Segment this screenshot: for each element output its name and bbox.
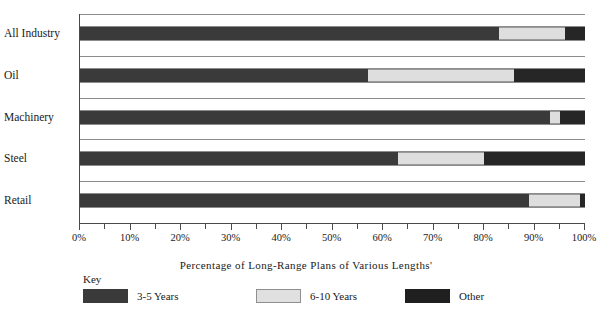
legend-swatch: [405, 289, 450, 303]
bar-row: [80, 194, 585, 207]
stacked-bar-chart: All IndustryOilMachinerySteelRetail 0%10…: [0, 0, 612, 310]
x-tick-label: 60%: [360, 232, 404, 243]
x-tick-minor: [306, 223, 307, 229]
bar-segment: [550, 111, 560, 124]
x-tick-minor: [458, 223, 459, 229]
x-tick-label: 30%: [209, 232, 253, 243]
bar-row: [80, 152, 585, 165]
bar-segment: [80, 194, 529, 207]
category-label: Retail: [4, 194, 31, 207]
gridline: [80, 124, 585, 125]
bar-segment: [398, 152, 484, 165]
bar-segment: [514, 69, 585, 82]
bar-segment: [80, 111, 550, 124]
x-tick-major: [332, 223, 333, 230]
x-tick-minor: [508, 223, 509, 229]
category-label: All Industry: [4, 27, 60, 40]
x-tick-major: [180, 223, 181, 230]
bar-segment: [499, 27, 565, 40]
x-tick-major: [483, 223, 484, 230]
x-tick-minor: [559, 223, 560, 229]
x-tick-major: [584, 223, 585, 230]
bar-segment: [565, 27, 585, 40]
x-tick-major: [130, 223, 131, 230]
x-tick-label: 100%: [562, 232, 606, 243]
category-label: Oil: [4, 69, 19, 82]
x-tick-major: [382, 223, 383, 230]
gridline: [80, 98, 585, 99]
x-tick-minor: [205, 223, 206, 229]
x-tick-label: 80%: [461, 232, 505, 243]
category-label: Steel: [4, 152, 27, 165]
bar-row: [80, 69, 585, 82]
bar-segment: [80, 69, 368, 82]
bar-segment: [560, 111, 585, 124]
gridline: [80, 181, 585, 182]
gridline: [80, 82, 585, 83]
legend-swatch: [83, 289, 128, 303]
x-tick-minor: [155, 223, 156, 229]
x-tick-label: 90%: [512, 232, 556, 243]
gridline: [80, 40, 585, 41]
gridline: [80, 14, 585, 15]
x-tick-major: [231, 223, 232, 230]
x-tick-minor: [407, 223, 408, 229]
x-tick-major: [79, 223, 80, 230]
bar-segment: [529, 194, 580, 207]
x-tick-label: 10%: [108, 232, 152, 243]
x-tick-major: [281, 223, 282, 230]
bar-segment: [80, 27, 499, 40]
x-tick-label: 20%: [158, 232, 202, 243]
bar-row: [80, 27, 585, 40]
legend-label: 3-5 Years: [137, 289, 179, 303]
legend-label: 6-10 Years: [310, 289, 357, 303]
x-tick-major: [534, 223, 535, 230]
x-tick-major: [433, 223, 434, 230]
category-label: Machinery: [4, 111, 54, 124]
x-tick-label: 70%: [411, 232, 455, 243]
plot-area: [79, 14, 584, 223]
bar-segment: [80, 152, 398, 165]
legend-title: Key: [83, 273, 101, 285]
x-axis-title: Percentage of Long-Range Plans of Variou…: [0, 259, 612, 271]
legend-label: Other: [459, 289, 484, 303]
gridline: [80, 207, 585, 208]
x-tick-label: 50%: [310, 232, 354, 243]
x-tick-minor: [104, 223, 105, 229]
bar-segment: [580, 194, 585, 207]
gridline: [80, 56, 585, 57]
gridline: [80, 165, 585, 166]
x-tick-label: 40%: [259, 232, 303, 243]
gridline: [80, 139, 585, 140]
bar-segment: [484, 152, 585, 165]
x-tick-label: 0%: [57, 232, 101, 243]
bar-segment: [368, 69, 514, 82]
x-tick-minor: [357, 223, 358, 229]
x-tick-minor: [256, 223, 257, 229]
legend-swatch: [256, 289, 301, 303]
bar-row: [80, 111, 585, 124]
